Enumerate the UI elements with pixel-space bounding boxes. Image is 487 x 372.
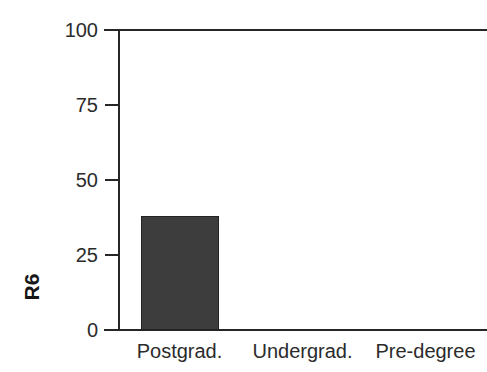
y-tick-mark-100 — [105, 29, 119, 31]
x-tick-label-postgrad: Postgrad. — [118, 338, 241, 365]
y-tick-label-25: 25 — [20, 245, 98, 265]
y-tick-label-100: 100 — [20, 20, 98, 40]
plot-top-border — [104, 29, 487, 31]
y-tick-mark-0 — [105, 329, 119, 331]
y-tick-label-75: 75 — [20, 95, 98, 115]
y-axis-title: R6 — [17, 257, 47, 317]
y-tick-mark-75 — [105, 104, 119, 106]
y-tick-label-0: 0 — [20, 320, 98, 340]
x-axis-tick-labels: Postgrad. Undergrad. Pre-degree — [118, 338, 487, 368]
bar-chart-figure: R6 100 75 50 25 0 Postgrad. Undergrad. P… — [0, 0, 487, 372]
y-tick-mark-50 — [105, 179, 119, 181]
bar-postgrad — [141, 216, 219, 330]
y-tick-label-50: 50 — [20, 170, 98, 190]
x-tick-label-undergrad: Undergrad. — [241, 338, 364, 365]
x-tick-label-pre-degree: Pre-degree — [364, 338, 487, 365]
y-tick-mark-25 — [105, 254, 119, 256]
